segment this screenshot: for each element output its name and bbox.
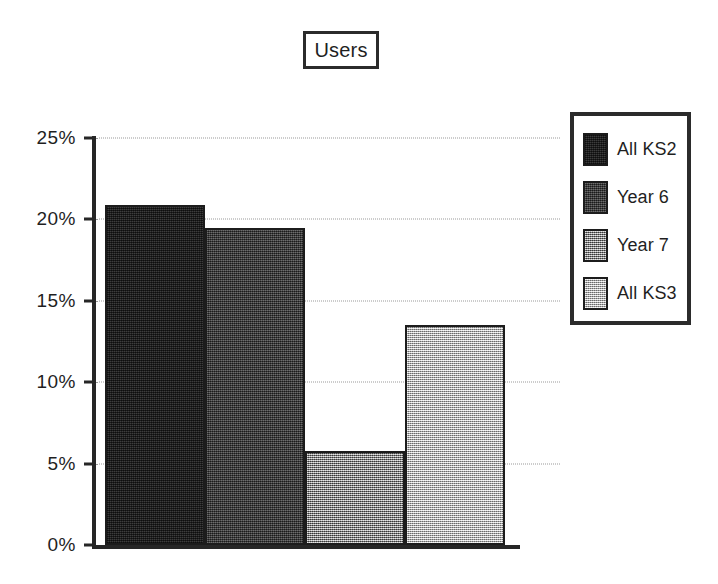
bar-all-ks2 [105, 205, 205, 545]
legend-item-year-6[interactable]: Year 6 [583, 173, 687, 221]
y-tick-mark [84, 381, 96, 384]
y-tick-label: 10% [6, 371, 76, 393]
legend: All KS2Year 6Year 7All KS3 [570, 112, 691, 325]
y-tick-label: 15% [6, 290, 76, 312]
legend-item-label: Year 7 [617, 235, 669, 256]
bar-year-7 [305, 451, 405, 545]
y-tick-mark [84, 218, 96, 221]
legend-item-label: Year 6 [617, 187, 669, 208]
legend-item-all-ks3[interactable]: All KS3 [583, 269, 687, 317]
legend-item-year-7[interactable]: Year 7 [583, 221, 687, 269]
y-tick-mark [84, 299, 96, 302]
gridline [96, 138, 560, 139]
y-tick-label: 20% [6, 208, 76, 230]
legend-item-label: All KS2 [617, 139, 677, 160]
legend-swatch-icon [583, 181, 608, 214]
legend-item-label: All KS3 [617, 283, 677, 304]
y-tick-mark [84, 462, 96, 465]
y-tick-label: 25% [6, 127, 76, 149]
x-axis-line [92, 545, 520, 549]
y-axis-line [92, 136, 96, 549]
legend-swatch-icon [583, 133, 608, 166]
y-tick-label: 0% [6, 534, 76, 556]
y-tick-label: 5% [6, 453, 76, 475]
y-tick-mark [84, 544, 96, 547]
bar-all-ks3 [405, 325, 505, 545]
bar-year-6 [205, 228, 305, 545]
legend-swatch-icon [583, 229, 608, 262]
legend-swatch-icon [583, 277, 608, 310]
legend-item-all-ks2[interactable]: All KS2 [583, 125, 687, 173]
y-tick-mark [84, 137, 96, 140]
